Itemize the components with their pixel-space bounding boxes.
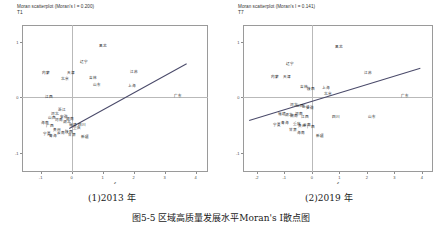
data-point-label: 上海 <box>128 84 136 88</box>
x-axis-tick <box>312 172 313 174</box>
subcaption-2013: (1)2013 年 <box>88 191 136 204</box>
vertical-reference-line <box>312 25 313 172</box>
x-axis-tick-label: 2 <box>132 175 134 180</box>
x-axis-tick <box>134 172 135 174</box>
data-point-label: 辽宁 <box>286 62 294 66</box>
x-axis-tick-label: 4 <box>194 175 196 180</box>
data-point-label: 内蒙 <box>271 75 279 79</box>
data-point-label: 海南 <box>41 121 49 125</box>
data-point-label: 北京 <box>324 92 332 96</box>
x-axis-tick-label: 4 <box>421 175 423 180</box>
y-axis-tick-label: 1 <box>237 39 239 44</box>
data-point-label: 海南 <box>297 131 305 135</box>
x-axis-tick <box>165 172 166 174</box>
data-point-label: 宁夏 <box>273 123 281 127</box>
y-axis-tick <box>241 153 243 154</box>
x-axis-tick-label: 3 <box>393 175 395 180</box>
data-point-label: 上海 <box>322 86 330 90</box>
data-point-label: 黑龙 <box>335 45 343 49</box>
data-point-label: 四川 <box>332 115 340 119</box>
chart-subtitle-left: T1 <box>17 10 23 15</box>
vertical-reference-line <box>72 25 73 172</box>
y-axis-tick-label: 0 <box>237 95 239 100</box>
data-point-label: 黑龙 <box>99 44 107 48</box>
x-axis-title-right: z <box>337 180 339 185</box>
chart-title-right: Moran scatterplot (Moran's I = 0.141) <box>238 4 315 10</box>
data-point-label: 山东 <box>93 83 101 87</box>
data-point-label: 辽宁 <box>80 60 88 64</box>
y-axis-tick-label: 0 <box>16 95 18 100</box>
x-axis-tick <box>196 172 197 174</box>
data-point-label: 内蒙 <box>42 71 50 75</box>
x-axis-tick <box>41 172 42 174</box>
data-point-label: 江西 <box>45 95 53 99</box>
x-axis-tick-label: 1 <box>101 175 103 180</box>
data-point-label: 青海 <box>281 121 289 125</box>
data-point-label: 江西 <box>301 115 309 119</box>
x-axis-title-left: z <box>114 180 116 185</box>
data-point-label: 新疆 <box>81 135 89 139</box>
x-axis-tick-label: 0 <box>70 175 72 180</box>
data-point-label: 山东 <box>368 115 376 119</box>
y-axis-tick-label: 1 <box>16 39 18 44</box>
data-point-label: 江苏 <box>130 70 138 74</box>
y-axis-tick <box>241 42 243 43</box>
data-point-label: 天津 <box>283 75 291 79</box>
x-axis-tick-label: -2 <box>255 175 259 180</box>
scatterplot-panel-2019: Moran scatterplot (Moran's I = 0.141) T7… <box>221 0 442 190</box>
data-point-label: 江苏 <box>364 71 372 75</box>
y-axis-tick <box>20 42 22 43</box>
data-point-label: 甘肃 <box>68 133 76 137</box>
figure-container: Moran scatterplot (Moran's I = 0.200) T1… <box>0 0 442 228</box>
chart-subtitle-right: T7 <box>238 10 244 15</box>
data-point-label: 湖南 <box>66 117 74 121</box>
x-axis-tick-label: -1 <box>39 175 43 180</box>
data-point-label: 广西 <box>307 125 315 129</box>
data-point-label: 安徽 <box>306 106 314 110</box>
x-axis-tick <box>72 172 73 174</box>
x-axis-tick <box>284 172 285 174</box>
chart-title-left: Moran scatterplot (Moran's I = 0.200) <box>17 4 94 10</box>
x-axis-tick <box>103 172 104 174</box>
data-point-label: 天津 <box>67 71 75 75</box>
x-axis-tick <box>422 172 423 174</box>
x-axis-tick-label: 2 <box>366 175 368 180</box>
data-point-label: 四川 <box>78 123 86 127</box>
figure-caption: 图5-5 区域高质量发展水平Moran's I散点图 <box>0 211 442 224</box>
x-axis-tick-label: -1 <box>283 175 287 180</box>
data-point-label: 吉林 <box>89 76 97 80</box>
x-axis-tick <box>257 172 258 174</box>
y-axis-tick <box>20 153 22 154</box>
data-point-label: 浙江 <box>58 108 66 112</box>
x-axis-tick-label: 0 <box>311 175 313 180</box>
data-point-label: 陕西 <box>307 87 315 91</box>
data-point-label: 北京 <box>61 77 69 81</box>
y-axis-tick-label: -1 <box>15 150 19 155</box>
subcaption-2019: (2)2019 年 <box>305 191 353 204</box>
x-axis-tick <box>367 172 368 174</box>
y-axis-tick-label: -1 <box>236 150 240 155</box>
scatterplot-panel-2013: Moran scatterplot (Moran's I = 0.200) T1… <box>0 0 221 190</box>
data-point-label: 广东 <box>174 94 182 98</box>
x-axis-tick-label: 3 <box>163 175 165 180</box>
data-point-label: 广东 <box>401 94 409 98</box>
data-point-label: 新疆 <box>316 134 324 138</box>
y-axis-tick <box>20 97 22 98</box>
y-axis-tick <box>241 97 243 98</box>
data-point-label: 宁夏 <box>43 132 51 136</box>
data-point-label: 甘肃 <box>289 128 297 132</box>
x-axis-tick <box>339 172 340 174</box>
x-axis-tick <box>394 172 395 174</box>
